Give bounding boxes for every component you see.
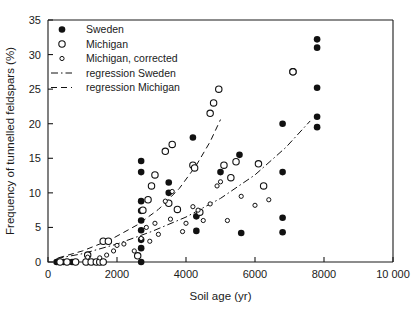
- data-point-sweden: [165, 179, 172, 186]
- x-tick-label: 4000: [174, 268, 198, 280]
- y-axis-title: Frequency of tunnelled feldspars (%): [4, 47, 16, 235]
- data-point-michigan: [168, 217, 172, 221]
- chart-figure: 051015202530350200040006000800010 000Soi…: [0, 0, 420, 310]
- data-point-michigan: [260, 183, 266, 189]
- y-tick-label: 30: [29, 49, 41, 61]
- legend-label-0: Sweden: [86, 23, 124, 35]
- data-point-sweden: [279, 229, 286, 236]
- legend-marker-sweden: [59, 26, 66, 33]
- data-point-sweden: [279, 120, 286, 127]
- data-point-sweden: [190, 134, 197, 141]
- data-point-michigan: [239, 194, 243, 198]
- data-point-sweden: [314, 44, 321, 51]
- data-point-sweden: [138, 158, 145, 165]
- data-point-michigan: [267, 198, 271, 202]
- data-point-michigan: [115, 243, 119, 247]
- data-point-michigan: [169, 141, 175, 147]
- x-tick-label: 0: [45, 268, 51, 280]
- data-point-michigan: [253, 203, 257, 207]
- data-point-michigan: [140, 207, 146, 213]
- legend-label-4: regression Michigan: [86, 81, 180, 93]
- data-point-michigan: [290, 69, 296, 75]
- x-axis-title: Soil age (yr): [190, 290, 252, 302]
- data-point-sweden: [138, 259, 145, 266]
- data-point-michigan: [148, 183, 154, 189]
- data-point-michigan: [191, 165, 197, 171]
- data-point-michigan: [163, 199, 167, 203]
- data-point-michigan: [221, 162, 227, 168]
- data-point-michigan: [233, 159, 239, 165]
- data-point-michigan: [218, 180, 222, 184]
- data-point-michigan: [255, 161, 261, 167]
- data-point-michigan: [156, 232, 160, 236]
- data-point-michigan: [216, 86, 222, 92]
- regression-line-sweden: [57, 121, 311, 259]
- data-point-michigan: [228, 174, 234, 180]
- y-tick-label: 5: [35, 221, 41, 233]
- data-point-sweden: [238, 230, 245, 237]
- data-point-michigan: [207, 110, 213, 116]
- y-tick-label: 0: [35, 256, 41, 268]
- data-point-michigan: [111, 249, 115, 253]
- data-point-michigan: [105, 238, 111, 244]
- data-point-michigan: [145, 197, 151, 203]
- y-tick-label: 20: [29, 118, 41, 130]
- y-tick-label: 15: [29, 152, 41, 164]
- scatter-plot: 051015202530350200040006000800010 000Soi…: [0, 0, 420, 310]
- data-point-sweden: [314, 114, 321, 121]
- legend-label-3: regression Sweden: [86, 67, 176, 79]
- data-point-sweden: [138, 217, 145, 224]
- data-point-michigan: [180, 229, 184, 233]
- data-point-sweden: [279, 169, 286, 176]
- data-point-sweden: [314, 124, 321, 131]
- data-point-michigan: [105, 253, 109, 257]
- legend-label-2: Michigan, corrected: [86, 52, 178, 64]
- data-point-sweden: [314, 84, 321, 91]
- data-point-sweden: [138, 245, 145, 252]
- data-point-michigan: [196, 208, 200, 212]
- data-point-michigan: [86, 255, 90, 259]
- data-point-sweden: [138, 227, 145, 234]
- data-point-sweden: [193, 228, 200, 235]
- data-point-michigan: [170, 189, 174, 193]
- legend-label-1: Michigan: [86, 38, 128, 50]
- data-point-sweden: [279, 214, 286, 221]
- legend-marker-michigan-corrected: [60, 56, 64, 60]
- data-point-michigan: [215, 184, 219, 188]
- data-point-michigan: [148, 239, 152, 243]
- data-point-michigan: [152, 172, 158, 178]
- data-point-michigan: [225, 218, 229, 222]
- data-point-sweden: [138, 169, 145, 176]
- data-point-michigan: [184, 221, 188, 225]
- data-point-sweden: [314, 36, 321, 43]
- data-point-michigan: [64, 259, 70, 265]
- legend-marker-michigan: [59, 41, 65, 47]
- data-point-michigan: [72, 259, 78, 265]
- data-point-michigan: [191, 205, 195, 209]
- data-point-michigan: [57, 259, 63, 265]
- data-point-michigan: [132, 249, 136, 253]
- data-point-michigan: [135, 253, 141, 259]
- data-point-michigan: [174, 206, 180, 212]
- data-point-sweden: [138, 198, 145, 205]
- data-point-michigan: [144, 225, 148, 229]
- data-point-michigan: [210, 100, 216, 106]
- data-point-michigan: [122, 242, 126, 246]
- x-tick-label: 2000: [105, 268, 129, 280]
- data-point-michigan: [201, 218, 205, 222]
- data-point-michigan: [162, 148, 168, 154]
- y-tick-label: 35: [29, 14, 41, 26]
- x-tick-label: 10 000: [376, 268, 410, 280]
- y-tick-label: 10: [29, 187, 41, 199]
- x-tick-label: 6000: [243, 268, 267, 280]
- data-point-michigan: [208, 202, 212, 206]
- data-point-michigan: [98, 256, 102, 260]
- data-point-sweden: [217, 169, 224, 176]
- y-tick-label: 25: [29, 83, 41, 95]
- x-tick-label: 8000: [312, 268, 336, 280]
- data-point-michigan: [139, 236, 143, 240]
- data-point-michigan: [153, 221, 157, 225]
- data-point-sweden: [236, 152, 243, 159]
